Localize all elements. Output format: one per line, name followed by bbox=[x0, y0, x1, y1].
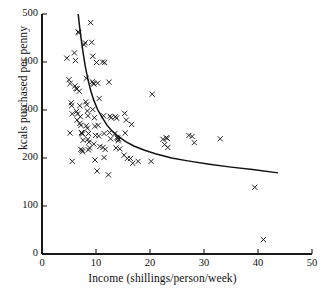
data-point-marker bbox=[218, 136, 223, 141]
data-point-marker bbox=[102, 155, 107, 160]
data-point-marker bbox=[78, 114, 83, 119]
x-tick-label: 10 bbox=[76, 257, 116, 268]
data-point-marker bbox=[66, 77, 71, 82]
x-tick-label: 20 bbox=[130, 257, 170, 268]
data-point-marker bbox=[122, 111, 127, 116]
x-axis-label: Income (shillings/person/week) bbox=[0, 272, 325, 284]
data-point-marker bbox=[72, 50, 77, 55]
data-point-marker bbox=[67, 81, 72, 86]
data-point-marker bbox=[78, 123, 83, 128]
data-point-marker bbox=[136, 159, 141, 164]
y-tick-label: 100 bbox=[0, 199, 38, 210]
x-tick-label: 40 bbox=[238, 257, 278, 268]
data-point-marker bbox=[86, 131, 91, 136]
data-point-marker bbox=[102, 131, 107, 136]
data-point-marker bbox=[92, 157, 97, 162]
data-point-marker bbox=[77, 89, 82, 94]
data-point-marker bbox=[94, 60, 99, 65]
data-point-marker bbox=[192, 140, 197, 145]
data-point-marker bbox=[64, 56, 69, 61]
fitted-curve bbox=[78, 14, 278, 173]
data-points bbox=[64, 20, 266, 242]
data-point-marker bbox=[89, 40, 94, 45]
data-point-marker bbox=[86, 147, 91, 152]
data-point-marker bbox=[148, 159, 153, 164]
data-point-marker bbox=[109, 115, 114, 120]
data-point-marker bbox=[113, 145, 118, 150]
data-point-marker bbox=[77, 103, 82, 108]
data-point-marker bbox=[117, 146, 122, 151]
data-point-marker bbox=[129, 122, 134, 127]
data-point-marker bbox=[96, 133, 101, 138]
chart-canvas bbox=[0, 0, 325, 294]
data-point-marker bbox=[106, 80, 111, 85]
data-point-marker bbox=[130, 161, 135, 166]
data-point-marker bbox=[83, 40, 88, 45]
data-point-marker bbox=[150, 92, 155, 97]
data-point-marker bbox=[95, 81, 100, 86]
data-point-marker bbox=[73, 58, 78, 63]
data-point-marker bbox=[91, 141, 96, 146]
data-point-marker bbox=[106, 172, 111, 177]
data-point-marker bbox=[108, 136, 113, 141]
data-point-marker bbox=[128, 156, 133, 161]
data-point-marker bbox=[70, 159, 75, 164]
x-tick-label: 0 bbox=[22, 257, 62, 268]
data-point-marker bbox=[165, 145, 170, 150]
data-point-marker bbox=[88, 20, 93, 25]
data-point-marker bbox=[261, 237, 266, 242]
data-point-marker bbox=[92, 115, 97, 120]
data-point-marker bbox=[124, 117, 129, 122]
x-tick-label: 30 bbox=[184, 257, 224, 268]
data-point-marker bbox=[252, 185, 257, 190]
data-point-marker bbox=[67, 130, 72, 135]
data-point-marker bbox=[85, 113, 90, 118]
data-point-marker bbox=[123, 130, 128, 135]
data-point-marker bbox=[90, 54, 95, 59]
y-axis-label: kcals purchased per penny bbox=[17, 3, 29, 173]
data-point-marker bbox=[80, 138, 85, 143]
data-point-marker bbox=[90, 107, 95, 112]
data-point-marker bbox=[103, 147, 108, 152]
data-point-marker bbox=[94, 168, 99, 173]
data-point-marker bbox=[114, 116, 119, 121]
data-point-marker bbox=[97, 96, 102, 101]
x-tick-label: 50 bbox=[292, 257, 325, 268]
data-point-marker bbox=[85, 108, 90, 113]
scatter-chart-figure: 0100200300400500 01020304050 kcals purch… bbox=[0, 0, 325, 294]
